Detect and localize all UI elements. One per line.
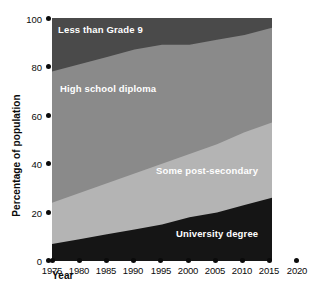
x-tick-dot-2010 bbox=[240, 258, 245, 263]
x-tick-dot-2020 bbox=[294, 258, 299, 263]
x-tick-label-2010: 2010 bbox=[229, 265, 255, 276]
y-tick-dot-80 bbox=[46, 64, 51, 69]
x-tick-dot-1990 bbox=[131, 258, 136, 263]
y-tick-label-80: 80 bbox=[14, 62, 42, 73]
x-tick-dot-2000 bbox=[186, 258, 191, 263]
x-tick-label-2005: 2005 bbox=[202, 265, 228, 276]
y-tick-label-100: 100 bbox=[14, 14, 42, 25]
series-label-university-degree: University degree bbox=[176, 228, 258, 239]
x-axis-label: Year bbox=[52, 270, 74, 281]
x-tick-label-2015: 2015 bbox=[256, 265, 282, 276]
x-tick-label-1985: 1985 bbox=[93, 265, 119, 276]
y-tick-dot-20 bbox=[46, 210, 51, 215]
area-bands-svg bbox=[52, 18, 272, 261]
x-tick-label-2000: 2000 bbox=[175, 265, 201, 276]
x-tick-dot-2015 bbox=[267, 258, 272, 263]
y-tick-dot-40 bbox=[46, 161, 51, 166]
x-tick-label-1995: 1995 bbox=[148, 265, 174, 276]
x-tick-dot-1975 bbox=[50, 258, 55, 263]
plot-area bbox=[52, 18, 272, 261]
series-label-less-than-grade9: Less than Grade 9 bbox=[58, 24, 143, 35]
x-tick-label-2020: 2020 bbox=[284, 265, 310, 276]
y-tick-label-0: 0 bbox=[14, 256, 42, 267]
stacked-area-chart: 100 80 60 40 20 0 Percentage of populati… bbox=[0, 0, 314, 292]
x-tick-dot-1980 bbox=[77, 258, 82, 263]
y-axis-label: Percentage of population bbox=[11, 76, 22, 236]
series-label-high-school-diploma: High school diploma bbox=[60, 83, 156, 94]
x-tick-dot-1995 bbox=[158, 258, 163, 263]
y-tick-dot-100 bbox=[46, 16, 51, 21]
y-tick-dot-60 bbox=[46, 113, 51, 118]
x-tick-dot-1985 bbox=[104, 258, 109, 263]
x-tick-label-1990: 1990 bbox=[120, 265, 146, 276]
x-tick-dot-2005 bbox=[213, 258, 218, 263]
series-label-some-post-secondary: Some post-secondary bbox=[156, 165, 258, 176]
